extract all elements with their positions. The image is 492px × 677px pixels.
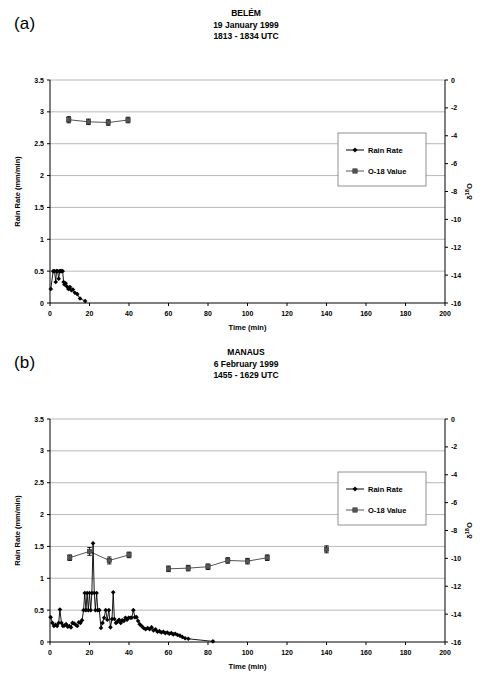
y-axis-left: 00.511.522.533.5 (34, 77, 50, 307)
x-axis: 020406080100120140160180200 (48, 303, 451, 317)
legend-label-o18-value: O-18 Value (368, 167, 406, 176)
y-axis-left-title: Rain Rate (mm/min) (13, 156, 22, 227)
y-axis-right-title: δ18O (464, 183, 474, 200)
figure-page: (a) BELÉM 19 January 1999 1813 - 1834 UT… (0, 0, 492, 677)
svg-text:-10: -10 (451, 555, 461, 562)
svg-text:160: 160 (360, 649, 372, 656)
y-axis-left-title: Rain Rate (mm/min) (13, 495, 22, 566)
svg-text:2.5: 2.5 (34, 140, 44, 147)
svg-text:120: 120 (281, 310, 293, 317)
svg-text:0: 0 (40, 639, 44, 646)
svg-text:120: 120 (281, 649, 293, 656)
x-axis: 020406080100120140160180200 (48, 642, 451, 656)
svg-text:1: 1 (40, 236, 44, 243)
svg-text:0: 0 (451, 77, 455, 84)
svg-text:-14: -14 (451, 272, 461, 279)
y-axis-right: 0-2-4-6-8-10-12-14-16 (445, 416, 461, 646)
svg-text:-2: -2 (451, 443, 457, 450)
svg-text:2.5: 2.5 (34, 479, 44, 486)
svg-text:0: 0 (40, 300, 44, 307)
svg-text:-6: -6 (451, 499, 457, 506)
svg-text:80: 80 (204, 310, 212, 317)
svg-text:40: 40 (125, 649, 133, 656)
svg-text:60: 60 (165, 649, 173, 656)
y-axis-right-title: δ18O (464, 522, 474, 539)
svg-text:-8: -8 (451, 188, 457, 195)
svg-text:100: 100 (242, 310, 254, 317)
svg-text:2: 2 (40, 172, 44, 179)
svg-text:-12: -12 (451, 244, 461, 251)
legend-label-rain-rate: Rain Rate (368, 146, 403, 155)
svg-text:180: 180 (400, 310, 412, 317)
panel-b-svg: 00.511.522.533.5Rain Rate (mm/min)0-2-4-… (0, 339, 492, 677)
x-axis-title: Time (min) (229, 662, 267, 671)
panel-a-svg: 00.511.522.533.5Rain Rate (mm/min)0-2-4-… (0, 0, 492, 338)
svg-text:2: 2 (40, 511, 44, 518)
svg-text:3.5: 3.5 (34, 77, 44, 84)
legend: Rain RateO-18 Value (338, 472, 426, 525)
panel-b: (b) MANAUS 6 February 1999 1455 - 1629 U… (0, 339, 492, 677)
svg-text:100: 100 (242, 649, 254, 656)
svg-text:-16: -16 (451, 639, 461, 646)
x-axis-title: Time (min) (229, 323, 267, 332)
svg-text:60: 60 (165, 310, 173, 317)
svg-text:200: 200 (439, 310, 451, 317)
svg-text:-6: -6 (451, 160, 457, 167)
panel-a-plot: 00.511.522.533.5Rain Rate (mm/min)0-2-4-… (0, 0, 492, 338)
svg-text:-14: -14 (451, 611, 461, 618)
legend: Rain RateO-18 Value (338, 133, 426, 186)
svg-text:0: 0 (48, 310, 52, 317)
svg-text:40: 40 (125, 310, 133, 317)
svg-text:1.5: 1.5 (34, 204, 44, 211)
y-axis-right: 0-2-4-6-8-10-12-14-16 (445, 77, 461, 307)
svg-text:0.5: 0.5 (34, 268, 44, 275)
legend-label-o18-value: O-18 Value (368, 506, 406, 515)
svg-text:-8: -8 (451, 527, 457, 534)
svg-text:1.5: 1.5 (34, 543, 44, 550)
svg-text:0: 0 (451, 416, 455, 423)
svg-text:3: 3 (40, 447, 44, 454)
y-axis-left: 00.511.522.533.5 (34, 416, 50, 646)
series-o18 (68, 546, 329, 572)
svg-text:3.5: 3.5 (34, 416, 44, 423)
panel-b-plot: 00.511.522.533.5Rain Rate (mm/min)0-2-4-… (0, 339, 492, 677)
svg-text:-10: -10 (451, 216, 461, 223)
svg-text:140: 140 (321, 310, 333, 317)
svg-text:160: 160 (360, 310, 372, 317)
svg-text:1: 1 (40, 575, 44, 582)
panel-a: (a) BELÉM 19 January 1999 1813 - 1834 UT… (0, 0, 492, 338)
svg-text:200: 200 (439, 649, 451, 656)
svg-text:-4: -4 (451, 471, 457, 478)
svg-text:0: 0 (48, 649, 52, 656)
series-rain-rate (48, 269, 87, 304)
svg-text:20: 20 (86, 310, 94, 317)
svg-text:140: 140 (321, 649, 333, 656)
svg-text:-12: -12 (451, 583, 461, 590)
svg-text:3: 3 (40, 108, 44, 115)
svg-text:180: 180 (400, 649, 412, 656)
series-o18 (67, 117, 131, 126)
axis-frame (50, 80, 445, 303)
legend-label-rain-rate: Rain Rate (368, 485, 403, 494)
svg-text:-4: -4 (451, 132, 457, 139)
svg-text:20: 20 (86, 649, 94, 656)
svg-text:-16: -16 (451, 300, 461, 307)
svg-text:-2: -2 (451, 104, 457, 111)
svg-text:80: 80 (204, 649, 212, 656)
svg-text:0.5: 0.5 (34, 607, 44, 614)
